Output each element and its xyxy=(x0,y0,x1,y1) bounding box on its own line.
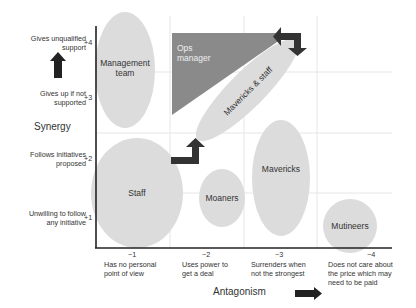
management-label-line2: team xyxy=(95,68,155,78)
y4-tick: +4 xyxy=(84,38,92,47)
y2-desc: Follows initiatives proposed xyxy=(30,150,86,168)
moaners-label: Moaners xyxy=(199,193,245,203)
x4-desc-line2: the price which may xyxy=(328,269,393,278)
x3-desc-line1: Surrenders when xyxy=(251,260,306,269)
mutineers-label: Mutineers xyxy=(322,221,378,231)
x4-desc: Does not care about the price which may … xyxy=(328,260,393,287)
x-axis-title: Antagonism xyxy=(213,286,266,297)
antagonism-arrow-icon xyxy=(295,287,322,300)
y3-tick: +3 xyxy=(84,93,92,102)
staff-label: Staff xyxy=(117,188,157,198)
y-axis-title: Synergy xyxy=(34,121,71,132)
x1-desc-line1: Has no personal xyxy=(104,260,156,269)
x2-desc: Uses power to get a deal xyxy=(182,260,228,278)
synergy-arrow-icon xyxy=(50,52,66,78)
x4-desc-line3: need to be paid xyxy=(328,278,393,287)
y4-desc-line2: support xyxy=(31,43,86,52)
x4-tick: −4 xyxy=(367,250,375,259)
y3-desc: Gives up if not supported xyxy=(40,89,86,107)
x2-desc-line2: get a deal xyxy=(182,269,228,278)
x3-tick: −3 xyxy=(275,250,283,259)
x1-tick: −1 xyxy=(128,250,136,259)
ops-label-line1: Ops xyxy=(177,43,211,53)
management-label-line1: Management xyxy=(95,58,155,68)
mavericks-region xyxy=(252,120,310,236)
ops-label-line2: manager xyxy=(177,53,211,63)
x2-desc-line1: Uses power to xyxy=(182,260,228,269)
mavericks-label: Mavericks xyxy=(252,164,310,174)
x2-tick: −2 xyxy=(202,250,210,259)
arrow-staff-to-mavericks-staff xyxy=(171,138,205,164)
y4-desc: Gives unqualified support xyxy=(31,34,86,52)
y2-desc-line2: proposed xyxy=(30,159,86,168)
x1-desc: Has no personal point of view xyxy=(104,260,156,278)
x3-desc: Surrenders when not the strongest xyxy=(251,260,306,278)
y1-desc: Unwilling to follow any initiative xyxy=(29,209,86,227)
management-team-label: Management team xyxy=(95,58,155,78)
ops-manager-label: Ops manager xyxy=(177,43,211,63)
x4-desc-line1: Does not care about xyxy=(328,260,393,269)
y2-desc-line1: Follows initiatives xyxy=(30,150,86,159)
y1-desc-line1: Unwilling to follow xyxy=(29,209,86,218)
y4-desc-line1: Gives unqualified xyxy=(31,34,86,43)
y3-desc-line2: supported xyxy=(40,98,86,107)
y2-tick: +2 xyxy=(84,154,92,163)
y1-tick: +1 xyxy=(84,213,92,222)
x3-desc-line2: not the strongest xyxy=(251,269,306,278)
y1-desc-line2: any initiative xyxy=(29,218,86,227)
x1-desc-line2: point of view xyxy=(104,269,156,278)
y3-desc-line1: Gives up if not xyxy=(40,89,86,98)
